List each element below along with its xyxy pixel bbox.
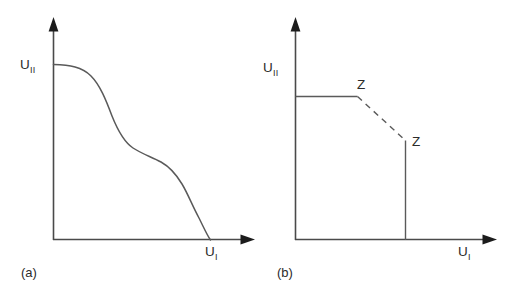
panel-b-x-axis-label-base: U bbox=[458, 244, 468, 259]
panel-b-x-axis-label: UI bbox=[458, 244, 471, 262]
panel-b-x-axis-arrowhead bbox=[483, 235, 498, 245]
figure-container: UII UI (a) UII UI Z bbox=[0, 0, 523, 296]
panel-b-y-axis-label-base: U bbox=[263, 60, 273, 75]
panel-b-x-axis-label-subscript: I bbox=[468, 252, 471, 262]
panel-b-y-axis-label-subscript: II bbox=[273, 68, 278, 78]
panel-a-frontier-curve bbox=[54, 65, 211, 241]
panel-a-x-axis-arrowhead bbox=[241, 235, 256, 245]
panel-b-point-label-z-upper: Z bbox=[357, 77, 365, 92]
panel-a-y-axis-label: UII bbox=[20, 57, 35, 75]
panel-b-point-label-z-lower: Z bbox=[412, 134, 420, 149]
panel-a-x-axis-label-subscript: I bbox=[215, 252, 218, 262]
panel-b-dashed-transition-segment bbox=[358, 97, 406, 141]
figure-svg: UII UI (a) UII UI Z bbox=[0, 0, 523, 296]
panel-a: UII UI (a) bbox=[20, 17, 255, 280]
panel-a-x-axis-label-base: U bbox=[205, 244, 215, 259]
panel-b: UII UI Z Z (b) bbox=[263, 17, 497, 280]
panel-a-caption: (a) bbox=[21, 265, 37, 280]
panel-b-y-axis-arrowhead bbox=[291, 17, 301, 32]
panel-a-y-axis-label-base: U bbox=[20, 57, 30, 72]
panel-b-caption: (b) bbox=[277, 265, 293, 280]
panel-b-y-axis-label: UII bbox=[263, 60, 278, 78]
panel-a-y-axis-arrowhead bbox=[49, 17, 59, 32]
panel-a-x-axis-label: UI bbox=[205, 244, 218, 262]
panel-a-y-axis-label-subscript: II bbox=[30, 65, 35, 75]
